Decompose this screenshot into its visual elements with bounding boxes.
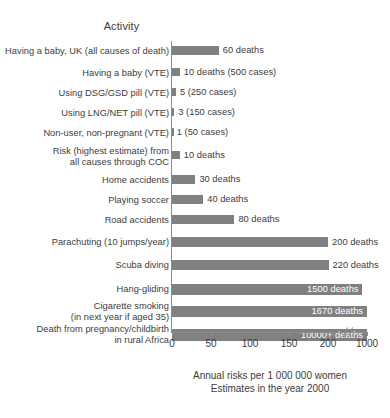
bar-value-label: 80 deaths — [238, 214, 279, 225]
bar-row-label: Using DSG/GSD pill (VTE) — [58, 88, 169, 99]
x-tick-label: 0 — [169, 338, 175, 349]
bar-row-label: Cigarette smoking (in next year if aged … — [71, 301, 169, 322]
bar-row-label: Playing soccer — [108, 195, 169, 206]
footer-line-2: Estimates in the year 2000 — [150, 382, 390, 395]
bar — [172, 108, 174, 116]
x-axis-line — [171, 332, 368, 333]
x-tick — [172, 332, 173, 336]
x-tick-label: 150 — [281, 338, 298, 349]
bar — [172, 215, 234, 224]
bar-value-label: 10 deaths (500 cases) — [184, 67, 276, 78]
footer-line-1: Annual risks per 1 000 000 women — [150, 369, 390, 382]
bar-row-label: Road accidents — [105, 215, 169, 226]
bar-value-label: 1 (50 cases) — [177, 127, 228, 138]
bar-value-label: 1500 deaths — [307, 284, 358, 295]
bar — [172, 151, 180, 159]
bar-row-label: Risk (highest estimate) from all causes … — [53, 146, 169, 167]
bar-row-label: Hang-gliding — [117, 284, 169, 295]
x-tick-label: 200 — [320, 338, 337, 349]
x-tick-label: 50 — [205, 338, 216, 349]
x-tick-label: 100 — [242, 338, 259, 349]
bar-row-label: Using LNG/NET pill (VTE) — [61, 108, 169, 119]
bar-row-label: Home accidents — [102, 175, 169, 186]
bar — [172, 237, 328, 247]
plot-area: Having a baby, UK (all causes of death)6… — [0, 41, 390, 336]
bar-value-label: 30 deaths — [199, 174, 240, 185]
bar-value-label: 5 (250 cases) — [180, 87, 237, 98]
bar-row-label: Scuba diving — [116, 260, 169, 271]
x-tick — [250, 332, 251, 336]
bar — [172, 195, 203, 204]
bar-value-label: 10 deaths — [184, 150, 225, 161]
bar-row-label: Having a baby (VTE) — [82, 68, 169, 79]
bar — [172, 88, 176, 96]
x-tick — [289, 332, 290, 336]
bar — [172, 260, 329, 270]
bar — [172, 128, 174, 136]
x-tick-label: 1000 — [356, 338, 378, 349]
x-tick — [328, 332, 329, 336]
bar-row-label: Non-user, non-pregnant (VTE) — [43, 128, 169, 139]
bar-value-label: 40 deaths — [207, 194, 248, 205]
bar-value-label: 3 (150 cases) — [178, 107, 235, 118]
chart-footer: Annual risks per 1 000 000 women Estimat… — [150, 369, 390, 395]
x-tick — [367, 332, 368, 336]
bar — [172, 175, 195, 184]
x-tick — [211, 332, 212, 336]
bar-value-label: 200 deaths — [332, 237, 378, 248]
bar-value-label: 1670 deaths — [312, 306, 363, 317]
bar-row-label: Parachuting (10 jumps/year) — [52, 237, 169, 248]
axis-break-icon — [342, 327, 358, 338]
bar-row-label: Having a baby, UK (all causes of death) — [5, 46, 169, 57]
bar — [172, 46, 219, 55]
x-axis: 0501001502001000 — [0, 332, 390, 372]
bar-value-label: 60 deaths — [223, 45, 264, 56]
risk-bar-chart: Activity Having a baby, UK (all causes o… — [0, 0, 390, 418]
chart-title: Activity — [0, 20, 243, 32]
bar — [172, 68, 180, 76]
bar-value-label: 220 deaths — [333, 260, 379, 271]
